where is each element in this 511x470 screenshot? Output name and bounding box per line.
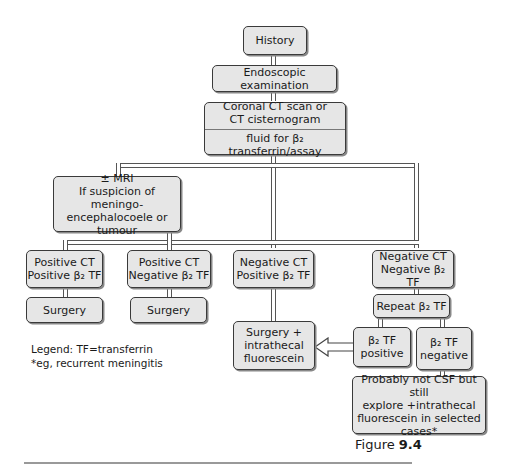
node-label: β₂ TF (368, 334, 396, 347)
bottom-rule (24, 462, 412, 464)
legend-line: Legend: TF=transferrin (31, 342, 163, 356)
divider (205, 129, 345, 130)
node-label: Negative CT (379, 250, 446, 263)
node-label: encephalocoele or tumour (54, 211, 180, 237)
connector (63, 240, 419, 245)
node-label: intrathecal (244, 339, 304, 352)
endoscopic-examination-node: Endoscopic examination (212, 65, 337, 92)
surgery-fluorescein-node: Surgery + intrathecal fluorescein (233, 321, 315, 370)
node-label: fluid for β₂ transferrin/assay (205, 132, 345, 158)
mri-node: ± MRI If suspicion of meningo- encephalo… (53, 176, 181, 232)
tf-positive-node: β₂ TF positive (353, 327, 411, 367)
surgery-node-2: Surgery (130, 297, 207, 323)
node-label: CT cisternogram (230, 113, 321, 126)
node-label: Positive CT (139, 256, 199, 269)
node-label: explore +intrathecal (362, 399, 475, 412)
node-label: fluorescein (244, 352, 304, 365)
history-node: History (243, 26, 307, 55)
node-label: Repeat β₂ TF (376, 300, 446, 313)
node-label: Negative β₂ TF (129, 269, 210, 282)
node-label: Surgery + (246, 326, 302, 339)
node-label: Negative CT (240, 256, 307, 269)
node-label: β₂ TF (430, 336, 458, 349)
node-label: ± MRI (100, 172, 133, 185)
node-label: Coronal CT scan or (223, 100, 327, 113)
connector (414, 163, 419, 248)
connector (116, 163, 419, 168)
connector (271, 155, 276, 248)
ct-scan-node: Coronal CT scan or CT cisternogram fluid… (204, 102, 346, 155)
node-label: Surgery (147, 304, 190, 317)
figure-caption: Figure 9.4 (355, 437, 422, 452)
figure-number: 9.4 (399, 437, 422, 452)
node-label: positive (360, 347, 403, 360)
node-label: If suspicion of meningo- (54, 185, 180, 211)
connector (378, 317, 383, 327)
negative-ct-positive-tf-node: Negative CT Positive β₂ TF (233, 250, 314, 288)
node-label: Negative β₂ TF (373, 263, 453, 289)
arrow-left-icon (314, 337, 356, 357)
node-label: Surgery (43, 304, 86, 317)
legend-line: *eg, recurrent meningitis (31, 356, 163, 370)
node-label: Positive β₂ TF (237, 269, 311, 282)
figure-prefix: Figure (355, 437, 399, 452)
node-label: Probably not CSF but still (353, 373, 485, 399)
connector (271, 55, 276, 65)
negative-ct-negative-tf-node: Negative CT Negative β₂ TF (372, 250, 454, 288)
node-label: Positive CT (34, 256, 94, 269)
tf-negative-node: β₂ TF negative (416, 327, 472, 370)
node-label: History (255, 34, 294, 47)
positive-ct-positive-tf-node: Positive CT Positive β₂ TF (26, 250, 103, 288)
node-label: cases* (401, 425, 438, 438)
probably-not-csf-node: Probably not CSF but still explore +intr… (352, 376, 486, 434)
connector (271, 288, 276, 322)
legend: Legend: TF=transferrin *eg, recurrent me… (31, 342, 163, 370)
surgery-node-1: Surgery (26, 297, 103, 323)
node-label: negative (420, 349, 468, 362)
connector (440, 317, 445, 327)
node-label: Endoscopic examination (213, 66, 336, 92)
node-label: fluorescein in selected (357, 412, 481, 425)
repeat-tf-node: Repeat β₂ TF (373, 294, 450, 318)
positive-ct-negative-tf-node: Positive CT Negative β₂ TF (127, 250, 211, 288)
node-label: Positive β₂ TF (28, 269, 102, 282)
